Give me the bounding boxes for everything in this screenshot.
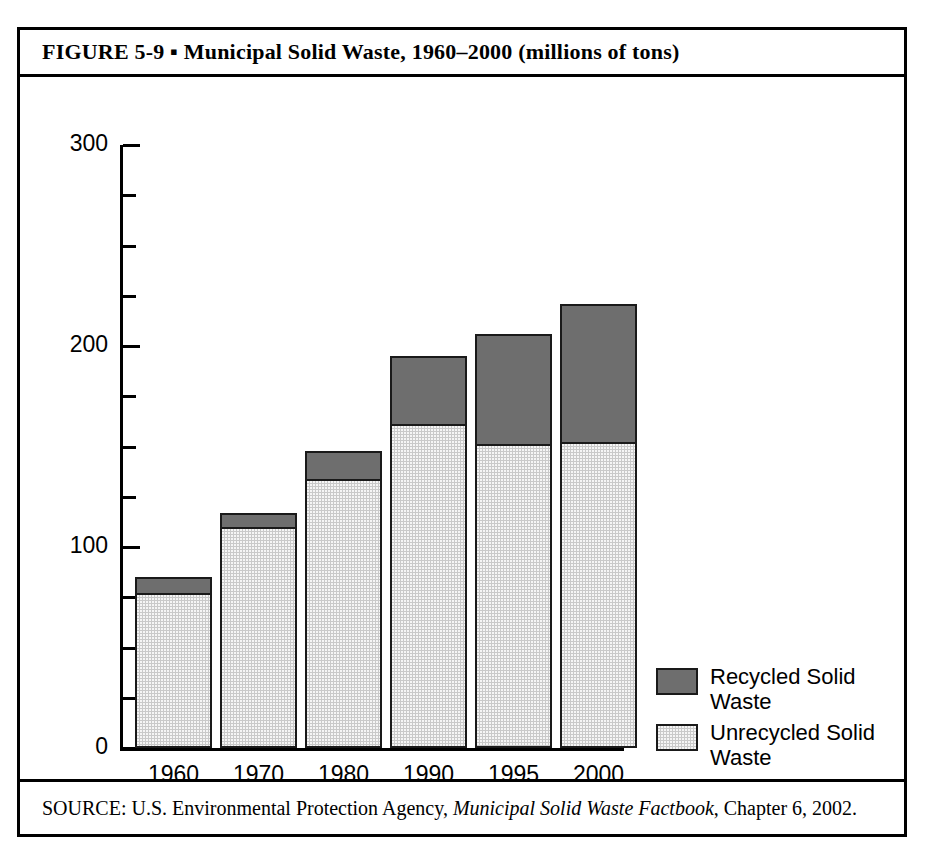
bar-segment-unrecycled[interactable]	[390, 426, 467, 748]
bar-stack-2000[interactable]	[560, 304, 637, 748]
bar-segments	[475, 334, 552, 748]
bar-segments	[220, 513, 297, 748]
source-note: SOURCE: U.S. Environmental Protection Ag…	[20, 797, 857, 820]
bar-segments	[135, 577, 212, 748]
source-publication-title: Municipal Solid Waste Factbook	[453, 797, 714, 819]
legend-item-recycled: Recycled Solid Waste	[656, 665, 904, 714]
bar-stack-1980[interactable]	[305, 451, 382, 748]
bar-segments	[305, 451, 382, 748]
bar-stack-1995[interactable]	[475, 334, 552, 748]
bar-segment-recycled[interactable]	[305, 451, 382, 481]
bar-segment-unrecycled[interactable]	[135, 595, 212, 748]
bar-stack-1970[interactable]	[220, 513, 297, 748]
legend-swatch-unrecycled-icon	[656, 724, 698, 751]
bar-segment-unrecycled[interactable]	[305, 481, 382, 748]
legend-label-unrecycled: Unrecycled Solid Waste	[710, 721, 896, 770]
legend-label-recycled: Recycled Solid Waste	[710, 665, 896, 714]
legend-swatch-recycled-icon	[656, 668, 698, 695]
bar-segment-recycled[interactable]	[560, 304, 637, 445]
bar-segments	[560, 304, 637, 748]
chart-legend: Recycled Solid Waste Unrecycled Solid Wa…	[656, 665, 904, 778]
source-suffix: , Chapter 6, 2002.	[714, 797, 857, 819]
bar-stack-1990[interactable]	[390, 356, 467, 748]
bar-segment-unrecycled[interactable]	[560, 444, 637, 748]
bar-segment-recycled[interactable]	[135, 577, 212, 595]
legend-item-unrecycled: Unrecycled Solid Waste	[656, 721, 904, 770]
figure-container: FIGURE 5-9 ▪ Municipal Solid Waste, 1960…	[17, 27, 907, 837]
chart-plot-area: 0100200300 196019701980199019952000 Recy…	[20, 77, 904, 782]
bar-segment-unrecycled[interactable]	[475, 446, 552, 748]
figure-title-band: FIGURE 5-9 ▪ Municipal Solid Waste, 1960…	[20, 30, 904, 77]
bar-segments	[390, 356, 467, 748]
bar-segment-unrecycled[interactable]	[220, 529, 297, 748]
page-title: FIGURE 5-9 ▪ Municipal Solid Waste, 1960…	[20, 39, 679, 65]
figure-source-band: SOURCE: U.S. Environmental Protection Ag…	[20, 779, 904, 834]
bar-segment-recycled[interactable]	[475, 334, 552, 447]
source-prefix: SOURCE: U.S. Environmental Protection Ag…	[42, 797, 453, 819]
bar-segment-recycled[interactable]	[220, 513, 297, 529]
bar-segment-recycled[interactable]	[390, 356, 467, 426]
bar-stack-1960[interactable]	[135, 577, 212, 748]
